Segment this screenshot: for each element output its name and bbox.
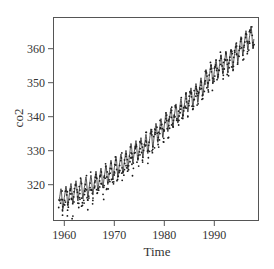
data-point xyxy=(132,175,134,177)
data-point xyxy=(119,170,121,172)
data-point xyxy=(92,200,94,202)
y-tick-label: 320 xyxy=(27,178,45,192)
data-point xyxy=(171,106,173,108)
data-point xyxy=(195,95,197,97)
data-point xyxy=(197,103,199,105)
data-point xyxy=(180,97,182,99)
data-point xyxy=(64,204,66,206)
data-point xyxy=(220,51,222,53)
data-point xyxy=(207,89,209,91)
data-point xyxy=(182,118,184,120)
data-point xyxy=(62,210,64,212)
data-point xyxy=(226,74,228,76)
data-point xyxy=(211,90,213,92)
data-point xyxy=(154,147,156,149)
data-point xyxy=(60,202,62,204)
data-point xyxy=(86,175,88,177)
data-point xyxy=(243,58,245,60)
data-point xyxy=(107,188,109,190)
data-point xyxy=(159,139,161,141)
data-point xyxy=(67,209,69,211)
data-point xyxy=(131,163,133,165)
data-point xyxy=(152,148,154,150)
data-point xyxy=(97,192,99,194)
data-point xyxy=(58,207,60,209)
data-point xyxy=(136,161,138,163)
data-point xyxy=(216,79,218,81)
data-point xyxy=(129,161,131,163)
data-point xyxy=(208,91,210,93)
data-point xyxy=(142,161,144,163)
data-point xyxy=(157,144,159,146)
data-point xyxy=(102,193,104,195)
data-point xyxy=(72,215,74,217)
data-point xyxy=(151,150,153,152)
co2-time-series-chart: 1960197019801990 320330340350360 Time co… xyxy=(0,0,274,269)
data-point xyxy=(158,146,160,148)
data-point xyxy=(66,215,68,217)
data-point xyxy=(180,108,182,110)
data-point xyxy=(87,199,89,201)
data-point xyxy=(90,171,92,173)
data-point xyxy=(138,165,140,167)
data-point xyxy=(92,197,94,199)
x-tick-label: 1990 xyxy=(202,228,226,242)
data-point xyxy=(210,62,212,64)
data-point xyxy=(142,159,144,161)
data-point xyxy=(65,201,67,203)
data-point xyxy=(228,75,230,77)
data-point xyxy=(125,165,127,167)
data-point xyxy=(187,116,189,118)
data-point xyxy=(202,98,204,100)
data-point xyxy=(147,162,149,164)
data-point xyxy=(83,202,85,204)
data-point xyxy=(103,199,105,201)
y-tick-label: 360 xyxy=(27,42,45,56)
data-point xyxy=(113,181,115,183)
data-point xyxy=(232,69,234,71)
data-point xyxy=(168,137,170,139)
data-point xyxy=(178,124,180,126)
data-point xyxy=(152,152,154,154)
data-point xyxy=(145,131,147,133)
data-point xyxy=(147,157,149,159)
data-point xyxy=(87,209,89,211)
data-point xyxy=(92,203,94,205)
data-point xyxy=(121,179,123,181)
data-point xyxy=(123,174,125,176)
data-point xyxy=(78,207,80,209)
data-point xyxy=(149,150,151,152)
data-point xyxy=(71,218,73,220)
data-point xyxy=(82,204,84,206)
data-point xyxy=(117,179,119,181)
data-point xyxy=(81,202,83,204)
data-point xyxy=(105,163,107,165)
data-point xyxy=(192,108,194,110)
data-point xyxy=(247,51,249,53)
x-tick-label: 1970 xyxy=(102,228,126,242)
chart-background xyxy=(0,0,274,269)
data-point xyxy=(127,170,129,172)
data-point xyxy=(121,152,123,154)
data-point xyxy=(163,141,165,143)
data-point xyxy=(109,181,111,183)
x-tick-label: 1980 xyxy=(152,228,176,242)
x-axis-title: Time xyxy=(144,244,171,259)
x-tick-label: 1960 xyxy=(52,228,76,242)
y-tick-label: 350 xyxy=(27,76,45,90)
y-axis-title: co2 xyxy=(11,109,26,128)
y-tick-label: 340 xyxy=(27,110,45,124)
data-point xyxy=(169,127,171,129)
data-point xyxy=(113,183,115,185)
data-point xyxy=(99,186,101,188)
data-point xyxy=(246,53,248,55)
data-point xyxy=(79,198,81,200)
data-point xyxy=(78,202,80,204)
data-point xyxy=(145,144,147,146)
data-point xyxy=(222,78,224,80)
y-tick-label: 330 xyxy=(27,144,45,158)
data-point xyxy=(139,154,141,156)
data-point xyxy=(62,214,64,216)
data-point xyxy=(133,167,135,169)
